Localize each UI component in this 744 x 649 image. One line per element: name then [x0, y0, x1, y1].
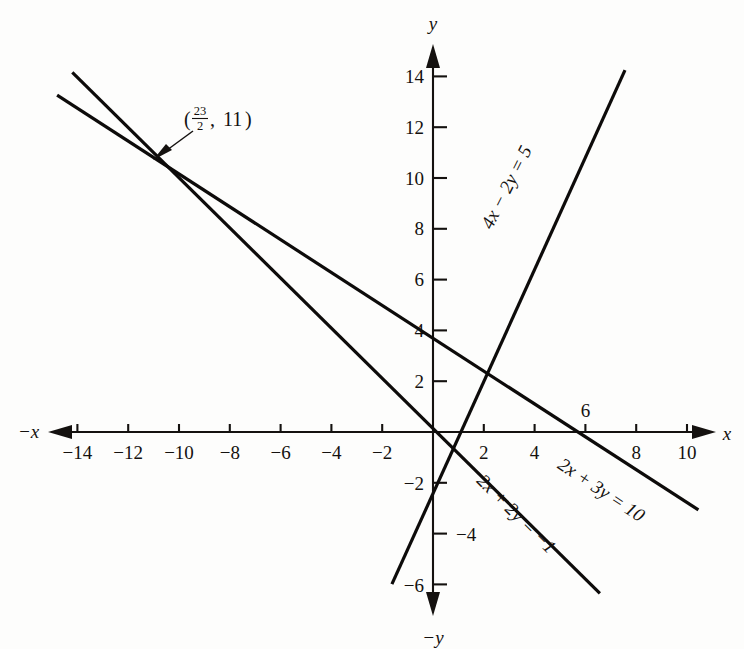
equation-text-4x-minus-2y: 4x − 2y = 5	[477, 142, 536, 232]
equation-text-2x-plus-2y: 2x + 2y = −1	[473, 470, 561, 558]
callout-y-value: 11	[223, 108, 242, 130]
equation-text-2x-plus-3y: 2x + 3y = 10	[554, 453, 649, 526]
x-tick-label-6: 6	[581, 400, 591, 421]
y-axis-label-negative: −y	[422, 627, 444, 648]
x-axis-label-negative: −x	[18, 421, 40, 442]
y-tick-marks	[433, 76, 447, 584]
y-tick-label-neg4: −4	[456, 524, 477, 545]
equation-label-4x-minus-2y: 4x − 2y = 5	[477, 142, 536, 232]
callout-open-paren: (	[184, 108, 191, 131]
x-axis-negative-arrowhead	[48, 425, 72, 439]
math-graph-figure: −14 −12 −10 −8 −6 −4 −2 2 4 6 8 10	[0, 0, 744, 649]
x-tick-label-neg8: −8	[220, 442, 240, 463]
intersection-callout: ( 23 2 , 11 )	[153, 104, 252, 160]
y-tick-label-6: 6	[415, 269, 425, 290]
coordinate-plane-svg: −14 −12 −10 −8 −6 −4 −2 2 4 6 8 10	[0, 0, 744, 649]
x-tick-label-10: 10	[678, 442, 697, 463]
y-axis-negative-arrowhead	[426, 592, 440, 616]
x-tick-label-neg6: −6	[270, 442, 290, 463]
callout-arrowhead	[153, 144, 172, 160]
x-tick-label-2: 2	[479, 442, 489, 463]
x-tick-label-neg10: −10	[164, 442, 194, 463]
callout-close-paren: )	[245, 108, 252, 131]
x-tick-label-4: 4	[530, 442, 540, 463]
x-tick-label-neg14: −14	[63, 442, 93, 463]
y-tick-label-neg6: −6	[404, 575, 424, 596]
y-tick-label-14: 14	[405, 66, 425, 87]
y-tick-label-neg2: −2	[404, 473, 424, 494]
x-tick-label-neg12: −12	[113, 442, 143, 463]
x-tick-label-neg4: −4	[321, 442, 342, 463]
y-axis-label-positive: y	[427, 13, 438, 34]
callout-fraction-numerator: 23	[194, 104, 207, 118]
y-tick-label-8: 8	[415, 218, 425, 239]
callout-comma: ,	[210, 108, 215, 130]
x-tick-label-8: 8	[631, 442, 641, 463]
x-axis-positive-arrowhead	[692, 425, 716, 439]
equation-label-2x-plus-3y: 2x + 3y = 10	[554, 453, 649, 526]
y-tick-label-2: 2	[415, 371, 425, 392]
equation-label-2x-plus-2y: 2x + 2y = −1	[473, 470, 561, 558]
y-axis-positive-arrowhead	[426, 44, 440, 68]
y-tick-label-12: 12	[405, 117, 424, 138]
y-tick-label-10: 10	[405, 168, 424, 189]
callout-fraction-denominator: 2	[197, 119, 203, 133]
x-axis-label-positive: x	[722, 423, 732, 444]
x-tick-label-neg2: −2	[372, 442, 392, 463]
x-tick-marks	[77, 424, 687, 432]
